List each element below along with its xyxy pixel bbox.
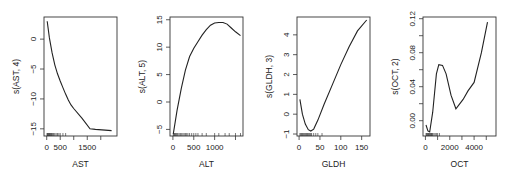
y-tick-label: 10 xyxy=(155,42,164,51)
y-axis-label: s(ALT, 5) xyxy=(137,60,147,94)
y-tick-label: 0.08 xyxy=(408,44,417,60)
x-tick-label: 0 xyxy=(423,143,428,152)
x-axis-label: ALT xyxy=(199,159,214,169)
y-axis-label: s(AST, 4) xyxy=(11,59,21,94)
smooth-curve xyxy=(426,22,488,132)
plot-frame xyxy=(44,17,117,136)
y-axis-label: s(GLDH, 3) xyxy=(264,55,274,98)
y-tick-label: −1 xyxy=(282,129,291,139)
panel-ast: 050015000−5−10−15ASTs(AST, 4) xyxy=(11,17,117,169)
x-tick-label: 150 xyxy=(355,143,369,152)
plot-frame xyxy=(297,17,370,136)
panel-alt: 05001000−5051015ALTs(ALT, 5) xyxy=(137,15,243,169)
y-tick-label: −5 xyxy=(155,124,164,134)
x-tick-label: 0 xyxy=(297,143,302,152)
y-tick-label: 2 xyxy=(282,72,291,77)
y-tick-label: 0.12 xyxy=(408,10,417,26)
x-tick-label: 500 xyxy=(187,143,201,152)
x-tick-label: 50 xyxy=(315,143,324,152)
y-tick-label: 4 xyxy=(282,32,291,37)
y-tick-label: 1 xyxy=(282,92,291,97)
y-tick-label: −10 xyxy=(29,92,38,106)
x-axis-label: GLDH xyxy=(322,159,346,169)
x-axis-label: AST xyxy=(72,159,89,169)
smooth-curve xyxy=(173,23,240,134)
smooth-curve xyxy=(47,21,111,130)
x-tick-label: 4000 xyxy=(465,143,483,152)
y-tick-label: 0 xyxy=(29,36,38,41)
y-tick-label: 5 xyxy=(155,72,164,77)
y-tick-label: 15 xyxy=(155,15,164,24)
x-tick-label: 1500 xyxy=(78,143,96,152)
smooth-curve xyxy=(300,20,367,131)
x-tick-label: 2000 xyxy=(441,143,459,152)
y-tick-label: −15 xyxy=(29,121,38,135)
x-tick-label: 0 xyxy=(44,143,49,152)
y-tick-label: −5 xyxy=(29,64,38,74)
y-tick-label: 0 xyxy=(155,99,164,104)
y-tick-label: 3 xyxy=(282,52,291,57)
panel-oct: 0200040000.000.040.080.12OCTs(OCT, 2) xyxy=(390,10,496,169)
x-tick-label: 500 xyxy=(54,143,68,152)
y-axis-label: s(OCT, 2) xyxy=(390,58,400,95)
plot-frame xyxy=(170,17,243,136)
y-tick-label: 0.04 xyxy=(408,78,417,94)
x-tick-label: 1000 xyxy=(206,143,224,152)
x-axis-label: OCT xyxy=(451,159,469,169)
y-tick-label: 0.00 xyxy=(408,112,417,128)
x-tick-label: 0 xyxy=(171,143,176,152)
y-tick-label: 0 xyxy=(282,111,291,116)
panel-gldh: 050100150−101234GLDHs(GLDH, 3) xyxy=(264,17,370,169)
x-tick-label: 100 xyxy=(334,143,348,152)
gam-partial-effects-figure: 050015000−5−10−15ASTs(AST, 4) 05001000−5… xyxy=(0,0,508,183)
